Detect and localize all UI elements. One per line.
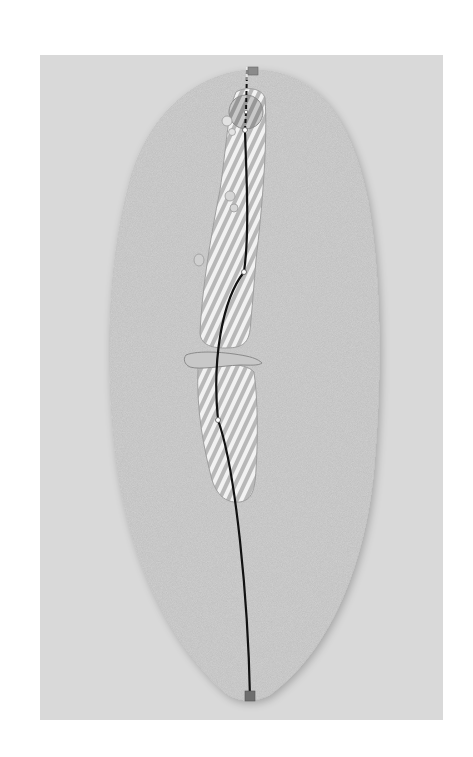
waypoint-marker[interactable] <box>243 128 248 133</box>
golf-hole-diagram <box>0 0 473 757</box>
bunker <box>225 191 235 201</box>
waypoint-marker[interactable] <box>216 418 221 423</box>
tee-box[interactable] <box>245 691 255 701</box>
bunker <box>222 116 232 126</box>
bunker <box>194 254 204 266</box>
bunker <box>229 129 236 136</box>
bunker <box>230 204 238 212</box>
hole-cup <box>244 110 248 114</box>
waypoint-marker[interactable] <box>242 270 247 275</box>
